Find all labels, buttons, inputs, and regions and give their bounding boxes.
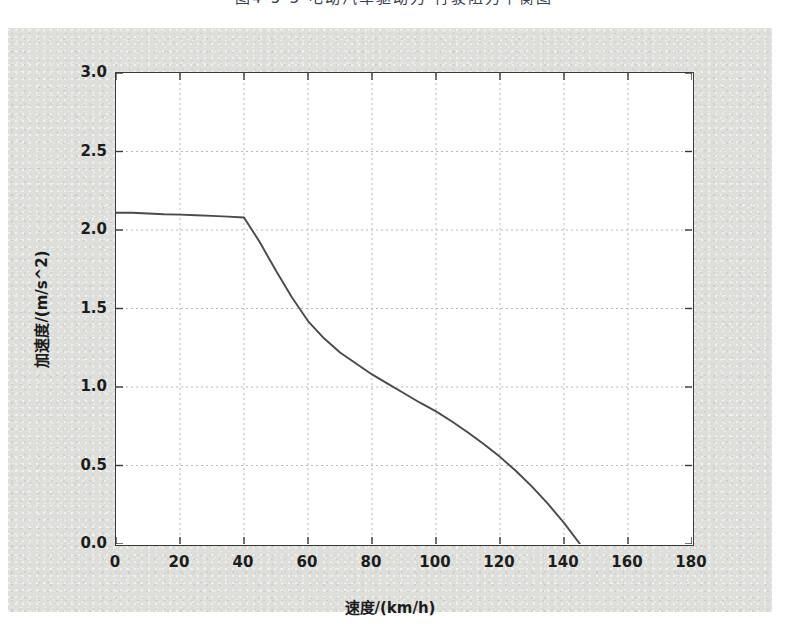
plot-area xyxy=(115,72,694,546)
y-axis-tick-label: 2.5 xyxy=(63,142,107,160)
x-axis-tick-label: 60 xyxy=(282,553,332,571)
x-axis-tick-label: 120 xyxy=(474,553,524,571)
x-axis-tick-label: 160 xyxy=(602,553,652,571)
y-axis-tick-label: 0.0 xyxy=(63,534,107,552)
y-axis-tick-label: 2.0 xyxy=(63,220,107,238)
x-axis-tick-label: 20 xyxy=(154,553,204,571)
y-axis-label: 加速度/(m/s^2) xyxy=(30,250,51,367)
x-axis-tick-label: 100 xyxy=(410,553,460,571)
figure-caption: 图4-5-3 电动汽车驱动力-行驶阻力平衡图 xyxy=(0,0,788,7)
acceleration-curve xyxy=(116,213,580,544)
y-axis-tick-label: 0.5 xyxy=(63,456,107,474)
y-axis-tick-label: 1.0 xyxy=(63,377,107,395)
x-axis-tick-label: 0 xyxy=(90,553,140,571)
chart-svg xyxy=(116,73,692,544)
y-axis-tick-label: 1.5 xyxy=(63,299,107,317)
x-axis-tick-label: 180 xyxy=(666,553,716,571)
x-axis-tick-label: 140 xyxy=(538,553,588,571)
gridlines-group xyxy=(116,73,692,544)
x-axis-label: 速度/(km/h) xyxy=(8,596,772,617)
figure-page: 图4-5-3 电动汽车驱动力-行驶阻力平衡图 0.00.51.01.52.02.… xyxy=(0,0,788,637)
y-axis-tick-label: 3.0 xyxy=(63,63,107,81)
x-axis-tick-label: 40 xyxy=(218,553,268,571)
x-axis-tick-label: 80 xyxy=(346,553,396,571)
matlab-figure-canvas: 0.00.51.01.52.02.53.0 020406080100120140… xyxy=(8,28,772,612)
y-axis-label-wrapper: 加速度/(m/s^2) xyxy=(28,72,52,546)
